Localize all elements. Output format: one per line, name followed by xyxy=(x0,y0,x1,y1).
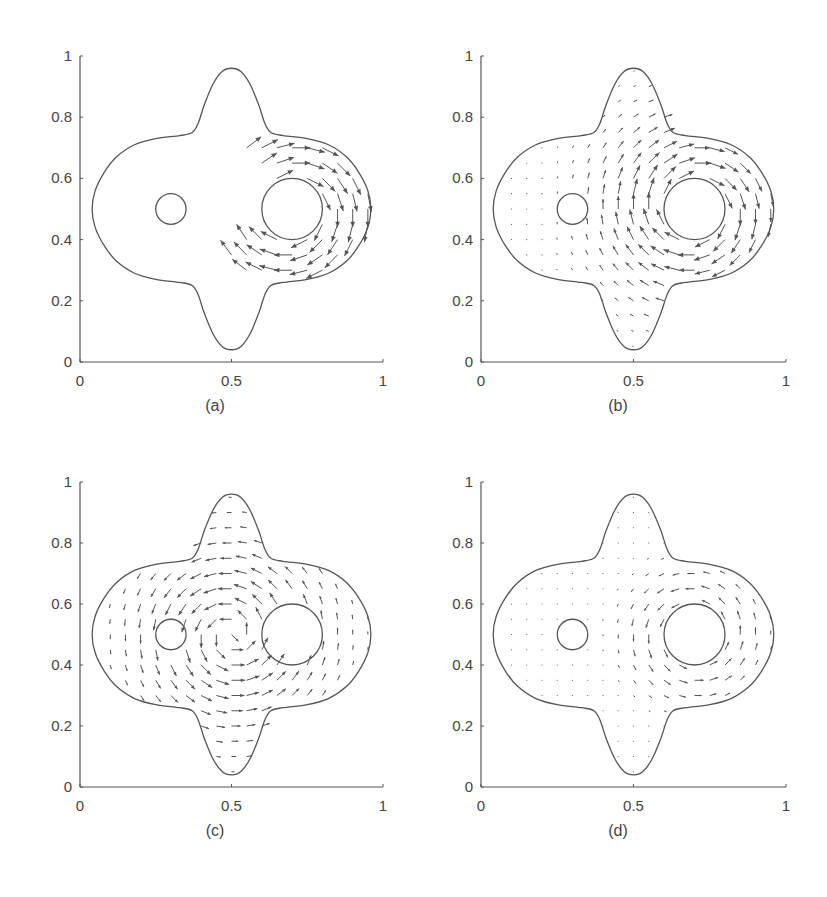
quiver-plot-d: 00.20.40.60.8100.51 xyxy=(0,0,827,897)
obstacle-circle xyxy=(664,604,725,665)
y-tick-label: 0.4 xyxy=(452,656,473,673)
x-tick-label: 1 xyxy=(782,797,790,814)
y-tick-label: 0.6 xyxy=(452,595,473,612)
obstacle-circle xyxy=(557,619,588,650)
y-tick-label: 0 xyxy=(465,778,473,795)
y-tick-label: 1 xyxy=(465,473,473,490)
x-tick-label: 0.5 xyxy=(623,797,644,814)
x-tick-label: 0 xyxy=(477,797,485,814)
y-tick-label: 0.2 xyxy=(452,717,473,734)
caption-d: (d) xyxy=(588,822,648,840)
vector-field xyxy=(511,497,772,773)
y-tick-label: 0.8 xyxy=(452,534,473,551)
panel-d: 00.20.40.60.8100.51 (d) xyxy=(0,0,410,420)
